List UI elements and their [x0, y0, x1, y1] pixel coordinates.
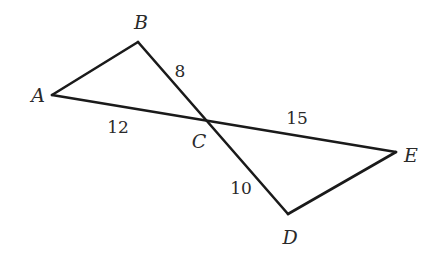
length-label-ce: 15	[286, 108, 308, 128]
length-label-bc: 8	[175, 61, 186, 81]
vertex-label-e: E	[403, 144, 418, 166]
length-label-ac: 12	[107, 117, 129, 137]
vertex-label-d: D	[281, 226, 297, 248]
length-label-cd: 10	[230, 178, 252, 198]
segment-bd	[138, 42, 288, 214]
triangle-diagram: A B C D E 8 12 15 10	[0, 0, 435, 253]
segment-ae	[52, 95, 396, 152]
vertex-label-a: A	[29, 84, 45, 106]
segment-de	[288, 152, 396, 214]
vertex-label-c: C	[192, 130, 207, 152]
segment-ab	[52, 42, 138, 95]
vertex-label-b: B	[133, 11, 148, 33]
